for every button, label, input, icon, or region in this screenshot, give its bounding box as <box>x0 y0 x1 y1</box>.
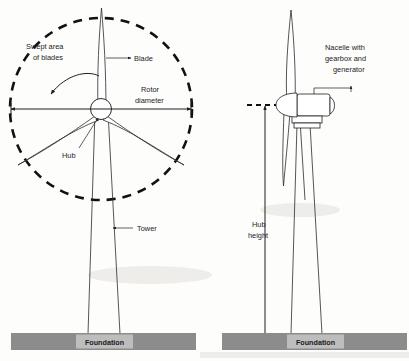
blade-lower-left <box>18 116 99 165</box>
swept-area-label-line1: Swept area <box>26 42 64 51</box>
rotor-diameter-label-line2: diameter <box>135 96 164 105</box>
left-turbine-group: Swept area of blades Blade Rotor diamete… <box>10 8 196 350</box>
nacelle-label-line2: gearbox and <box>325 54 366 63</box>
blade-top <box>98 8 106 112</box>
nacelle-yaw-ring <box>294 123 320 128</box>
swept-area-arrow <box>51 73 99 94</box>
nacelle-tail-cap <box>330 97 335 114</box>
tower-right-turbine-left-edge <box>291 124 297 334</box>
foundation-label-left: Foundation <box>85 338 124 347</box>
tower-right-edge <box>108 112 120 334</box>
blade-rear-right-turbine <box>300 120 305 200</box>
hub-height-label-line1: Hub <box>252 220 266 229</box>
tower-left-edge <box>88 112 95 334</box>
blade-down-right-turbine <box>283 112 290 186</box>
nacelle-label-line3: generator <box>333 65 365 74</box>
blade-label: Blade <box>134 54 153 63</box>
blade-up-right-turbine <box>286 10 295 104</box>
right-turbine-group: Nacelle with gearbox and generator Hub h… <box>222 10 407 350</box>
hub-height-label-line2: height <box>248 231 268 240</box>
hub-nose-cone <box>276 93 297 117</box>
blade-lower-right <box>103 116 184 165</box>
foundation-label-right: Foundation <box>296 338 335 347</box>
hub-label: Hub <box>62 151 76 160</box>
tower-label: Tower <box>137 224 157 233</box>
nacelle-body <box>297 94 330 116</box>
nacelle-label-line1: Nacelle with <box>325 43 365 52</box>
swept-area-label-line2: of blades <box>33 53 63 62</box>
tower-right-turbine-right-edge <box>310 124 322 334</box>
wind-turbine-diagram: Swept area of blades Blade Rotor diamete… <box>0 0 409 361</box>
diagram-canvas: Swept area of blades Blade Rotor diamete… <box>0 0 409 361</box>
nacelle-leader-line <box>314 88 351 94</box>
rotor-diameter-label-line1: Rotor <box>141 85 160 94</box>
